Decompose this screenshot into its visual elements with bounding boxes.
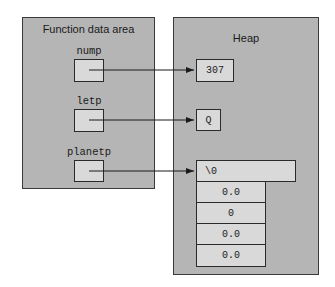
planetp-pointer-box xyxy=(74,160,104,182)
heap-string-terminator-cell: \0 xyxy=(196,160,296,182)
letp-label: letp xyxy=(59,95,119,107)
heap-char-cell: Q xyxy=(196,109,221,131)
heap-array-cell: 0.0 xyxy=(196,181,266,203)
heap-title: Heap xyxy=(174,32,318,44)
nump-label: nump xyxy=(59,45,119,57)
function-data-area-title: Function data area xyxy=(23,23,154,35)
letp-pointer-box xyxy=(74,109,104,132)
nump-pointer-box xyxy=(74,59,104,82)
heap-array-cell: 0.0 xyxy=(196,223,266,245)
planetp-label: planetp xyxy=(59,146,119,158)
heap-array-cell: 0.0 xyxy=(196,244,266,267)
heap-array-cell: 0 xyxy=(196,202,266,224)
heap-int-cell: 307 xyxy=(196,59,234,82)
